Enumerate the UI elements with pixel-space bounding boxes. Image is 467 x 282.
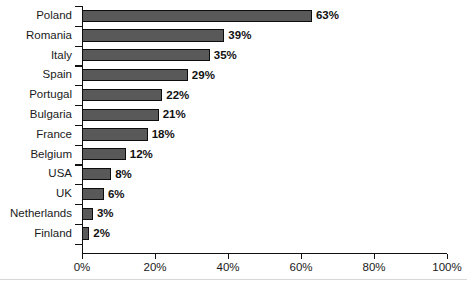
bar-row: 18% (82, 125, 447, 145)
x-axis-tick (82, 254, 83, 260)
bar (82, 89, 162, 101)
x-axis-tick (155, 254, 156, 260)
bar-row: 22% (82, 85, 447, 105)
bar (82, 128, 148, 140)
y-axis-tick (75, 46, 82, 47)
x-axis-tick-label: 40% (216, 261, 239, 273)
bar-row: 21% (82, 105, 447, 125)
bar-row: 35% (82, 46, 447, 66)
x-axis-tick-label: 60% (289, 261, 312, 273)
category-label: USA (0, 164, 72, 184)
bar (82, 148, 126, 160)
category-label: Poland (0, 6, 72, 26)
category-label: Spain (0, 65, 72, 85)
bar-value-label: 6% (108, 187, 125, 201)
bar-value-label: 22% (166, 88, 189, 102)
bar (82, 49, 210, 61)
category-label: Italy (0, 46, 72, 66)
bar-row: 2% (82, 224, 447, 244)
bottom-rule (0, 279, 467, 280)
bar (82, 168, 111, 180)
y-axis-tick (75, 85, 82, 86)
x-axis-tick-label: 0% (74, 261, 91, 273)
bar-row: 6% (82, 184, 447, 204)
x-axis-tick-label: 80% (362, 261, 385, 273)
bar (82, 188, 104, 200)
bar-row: 29% (82, 65, 447, 85)
x-axis-tick-label: 20% (143, 261, 166, 273)
y-axis-tick (75, 145, 82, 146)
bar-value-label: 8% (115, 167, 132, 181)
category-label: Finland (0, 224, 72, 244)
x-axis-tick-label: 100% (432, 261, 461, 273)
category-label: France (0, 125, 72, 145)
bar (82, 208, 93, 220)
y-axis-tick (75, 26, 82, 27)
x-axis-tick (374, 254, 375, 260)
bar-chart: PolandRomaniaItalySpainPortugalBulgariaF… (0, 0, 467, 282)
bar-value-label: 29% (192, 68, 215, 82)
bar-row: 12% (82, 145, 447, 165)
plot-area: PolandRomaniaItalySpainPortugalBulgariaF… (0, 0, 467, 282)
bar (82, 29, 224, 41)
y-axis-tick (75, 65, 82, 66)
bar-value-label: 21% (163, 107, 186, 121)
bar-value-label: 12% (130, 147, 153, 161)
x-axis-tick (228, 254, 229, 260)
category-label: Netherlands (0, 204, 72, 224)
y-axis-tick (75, 6, 82, 7)
bar-value-label: 39% (228, 28, 251, 42)
bar-value-label: 63% (316, 8, 339, 22)
y-axis-tick (75, 244, 82, 245)
x-axis-tick (447, 254, 448, 260)
category-label: Portugal (0, 85, 72, 105)
bar-value-label: 2% (93, 226, 110, 240)
bar-row: 3% (82, 204, 447, 224)
category-label: Bulgaria (0, 105, 72, 125)
bar-row: 39% (82, 26, 447, 46)
y-axis-tick (75, 125, 82, 126)
y-axis-tick (75, 105, 82, 106)
bar (82, 69, 188, 81)
category-label: UK (0, 184, 72, 204)
bar-value-label: 3% (97, 206, 114, 220)
bars-layer: 63%39%35%29%22%21%18%12%8%6%3%2% (82, 6, 447, 253)
category-axis-labels: PolandRomaniaItalySpainPortugalBulgariaF… (0, 6, 72, 244)
category-label: Belgium (0, 145, 72, 165)
y-axis-tick (75, 164, 82, 165)
bar (82, 109, 159, 121)
y-axis-tick (75, 224, 82, 225)
bar-row: 8% (82, 164, 447, 184)
bar (82, 227, 89, 239)
y-axis-tick (75, 184, 82, 185)
y-axis-tick (75, 204, 82, 205)
bar-row: 63% (82, 6, 447, 26)
bar (82, 10, 312, 22)
bar-value-label: 18% (152, 127, 175, 141)
x-axis-tick (301, 254, 302, 260)
category-label: Romania (0, 26, 72, 46)
bar-value-label: 35% (214, 48, 237, 62)
